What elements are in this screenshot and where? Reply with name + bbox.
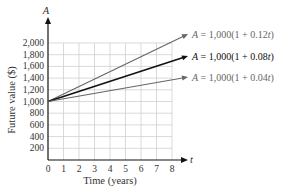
legend-label-008: A = 1,000(1 + 0.08t) <box>191 51 274 63</box>
x-tick-label: 1 <box>61 164 66 174</box>
y-tick-label: 800 <box>30 108 45 118</box>
y-axis-arrow-icon <box>45 17 51 24</box>
x-tick-label: 8 <box>170 164 175 174</box>
y-axis-symbol: A <box>42 5 50 16</box>
x-tick-label: 2 <box>77 164 82 174</box>
tick-labels: 0123456782004006008001,0001,2001,4001,60… <box>23 38 175 174</box>
x-axis-symbol: t <box>190 154 194 165</box>
x-tick-label: 6 <box>139 164 144 174</box>
series-lines <box>48 34 188 102</box>
legend-label-004: A = 1,000(1 + 0.04t) <box>191 72 274 84</box>
grid <box>48 43 172 160</box>
y-tick-label: 1,000 <box>23 97 45 107</box>
y-tick-label: 1,600 <box>23 61 45 71</box>
chart: 0123456782004006008001,0001,2001,4001,60… <box>0 0 295 192</box>
legend-label-012: A = 1,000(1 + 0.12t) <box>191 29 274 41</box>
x-axis-arrow-icon <box>181 157 188 163</box>
x-tick-label: 3 <box>92 164 97 174</box>
series-arrow-icon <box>182 75 188 80</box>
x-tick-label: 4 <box>108 164 113 174</box>
y-tick-label: 1,400 <box>23 73 45 83</box>
y-tick-label: 400 <box>30 132 45 142</box>
y-axis-label: Future value ($) <box>6 66 18 134</box>
y-tick-label: 200 <box>30 143 45 153</box>
x-tick-label: 7 <box>154 164 159 174</box>
x-axis-label: Time (years) <box>83 175 137 187</box>
y-tick-label: 1,200 <box>23 85 45 95</box>
y-tick-label: 2,000 <box>23 38 45 48</box>
x-tick-label: 5 <box>123 164 128 174</box>
x-tick-label: 0 <box>46 164 51 174</box>
series-arrow-icon <box>181 55 188 60</box>
series-line <box>48 57 184 101</box>
y-tick-label: 1,800 <box>23 50 45 60</box>
series-line <box>48 36 184 102</box>
y-tick-label: 600 <box>30 120 45 130</box>
